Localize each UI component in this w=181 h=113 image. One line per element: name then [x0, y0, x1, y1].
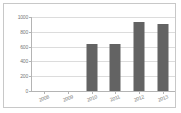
x-axis-tick-label: 2009 — [62, 94, 73, 102]
y-axis-tick — [29, 17, 32, 18]
y-axis-tick-label: 0 — [25, 89, 28, 94]
bar — [158, 24, 169, 91]
bar — [86, 44, 97, 91]
y-gridline — [32, 76, 175, 77]
y-gridline — [32, 61, 175, 62]
x-axis-tick-label: 2010 — [86, 94, 97, 102]
bar — [110, 44, 121, 91]
y-gridline — [32, 47, 175, 48]
y-axis-tick-label: 800 — [20, 29, 28, 34]
x-axis-tick-label: 2011 — [110, 94, 121, 102]
y-axis-tick — [29, 61, 32, 62]
x-axis-tick-label: 2008 — [38, 94, 49, 102]
y-axis-tick-label: 400 — [20, 59, 28, 64]
bar — [134, 22, 145, 91]
x-axis-tick-label: 2013 — [157, 94, 168, 102]
y-axis-tick-label: 200 — [20, 74, 28, 79]
plot-area: 0200400600800100020082009201020112012201… — [31, 17, 175, 92]
y-axis-tick — [29, 47, 32, 48]
y-axis-tick-label: 1000 — [18, 15, 28, 20]
y-axis-tick-label: 600 — [20, 44, 28, 49]
y-axis-tick — [29, 76, 32, 77]
y-gridline — [32, 17, 175, 18]
y-axis-tick — [29, 32, 32, 33]
chart-frame: 0200400600800100020082009201020112012201… — [3, 3, 176, 108]
y-axis-tick — [29, 91, 32, 92]
x-axis-tick-label: 2012 — [134, 94, 145, 102]
y-gridline — [32, 32, 175, 33]
